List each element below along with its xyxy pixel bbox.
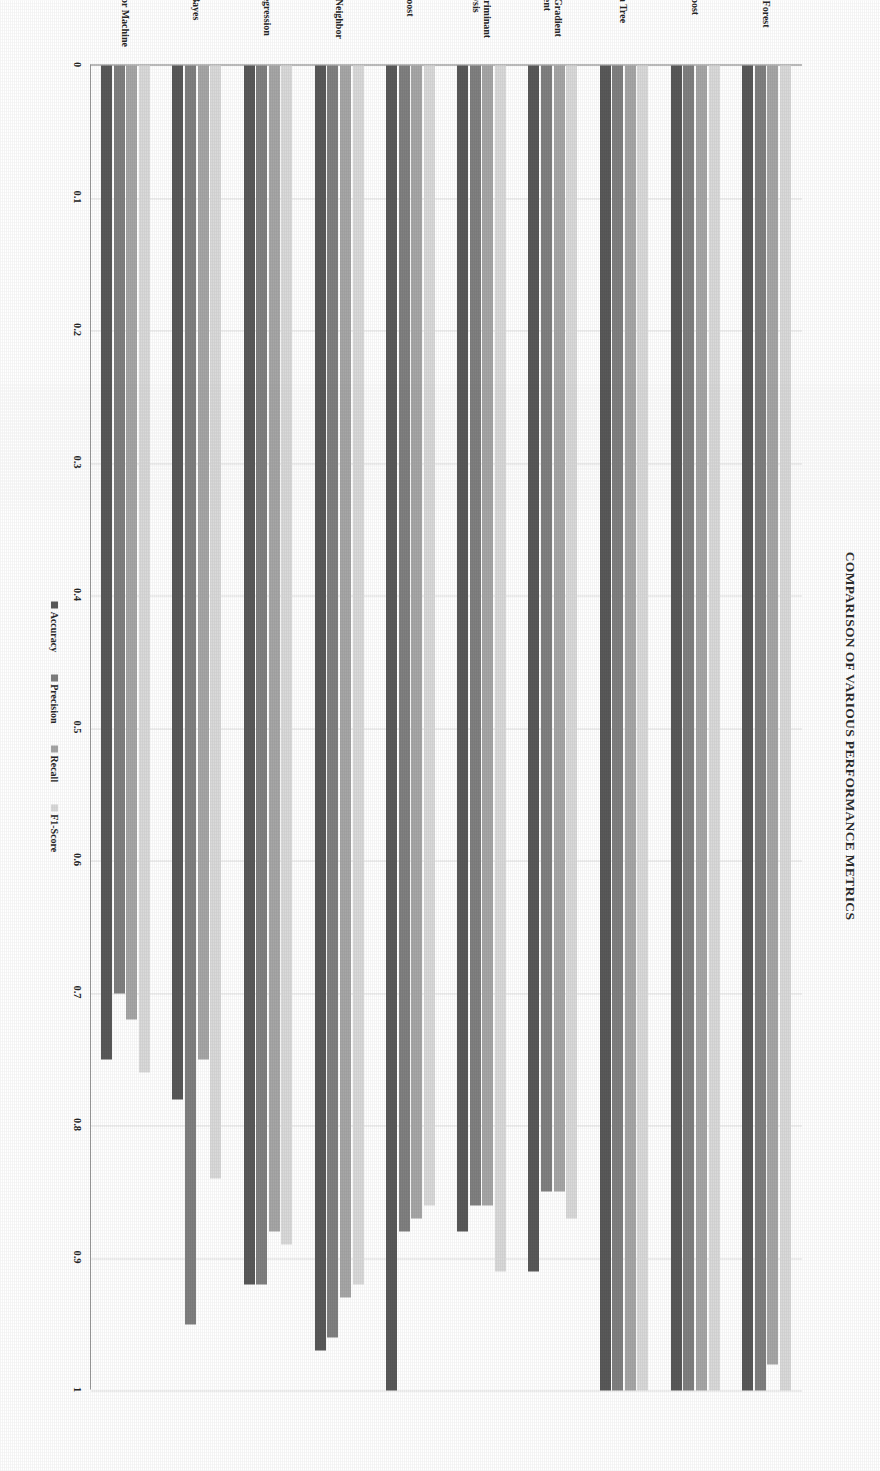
bar-recall: [340, 65, 351, 1297]
value-tick-label: 0.1: [72, 180, 83, 214]
bar-group: [375, 65, 446, 1389]
bar-group: [304, 65, 375, 1389]
bar-recall: [269, 65, 280, 1231]
bar-precision: [114, 65, 125, 993]
value-tick-label: 0.3: [72, 445, 83, 479]
bar-accuracy: [742, 65, 753, 1390]
bar-f1-score: [709, 65, 720, 1390]
bar-f1-score: [353, 65, 364, 1284]
bar-f1-score: [424, 65, 435, 1205]
bar-precision: [470, 65, 481, 1205]
legend-item-label: Accuracy: [49, 611, 60, 652]
bar-group: [232, 65, 303, 1389]
bar-group: [517, 65, 588, 1389]
bar-group: [660, 65, 731, 1389]
category-label: Stochastic Gradient Descent: [542, 0, 564, 54]
bar-recall: [696, 65, 707, 1390]
bar-f1-score: [566, 65, 577, 1218]
chart-legend: AccuracyPrecisionRecallF1-Score: [49, 64, 60, 1389]
bar-group: [161, 65, 232, 1389]
bar-recall: [625, 65, 636, 1390]
value-tick-label: 0.5: [72, 710, 83, 744]
legend-item-label: Recall: [49, 755, 60, 782]
rotated-figure-canvas: Comparison of Various Performance Metric…: [0, 0, 880, 1471]
category-label: Naive Bayes: [191, 0, 202, 54]
legend-item-precision[interactable]: Precision: [49, 674, 60, 723]
value-tick-label: 0.4: [72, 577, 83, 611]
category-label: Linear Discriminant Analysis: [471, 0, 493, 54]
bar-f1-score: [139, 65, 150, 1072]
value-tick-label: 0.2: [72, 312, 83, 346]
bar-precision: [755, 65, 766, 1390]
page-title: Comparison of Various Performance Metric…: [842, 0, 858, 1471]
plot-area: [90, 64, 802, 1389]
bar-group: [588, 65, 659, 1389]
legend-item-f1-score[interactable]: F1-Score: [49, 804, 60, 852]
bar-accuracy: [315, 65, 326, 1350]
legend-swatch-icon: [51, 674, 58, 681]
legend-item-label: F1-Score: [49, 814, 60, 852]
bar-precision: [541, 65, 552, 1191]
legend-swatch-icon: [51, 745, 58, 752]
bar-accuracy: [172, 65, 183, 1099]
bar-accuracy: [244, 65, 255, 1284]
bar-recall: [198, 65, 209, 1059]
value-tick-label: 1: [72, 1372, 83, 1406]
bar-f1-score: [495, 65, 506, 1271]
category-label: Support Vector Machine: [120, 0, 131, 54]
chart-figure: Comparison of Various Performance Metric…: [0, 0, 880, 1471]
bar-precision: [185, 65, 196, 1324]
bar-f1-score: [210, 65, 221, 1178]
legend-swatch-icon: [51, 601, 58, 608]
category-label: Ada Boost: [405, 0, 416, 54]
value-tick-label: 0: [72, 47, 83, 81]
category-label: Decision Tree: [619, 0, 630, 54]
value-tick-label: 0.8: [72, 1107, 83, 1141]
legend-swatch-icon: [51, 804, 58, 811]
bar-accuracy: [671, 65, 682, 1390]
bar-f1-score: [780, 65, 791, 1390]
legend-item-accuracy[interactable]: Accuracy: [49, 601, 60, 652]
bar-recall: [411, 65, 422, 1218]
category-label: Random Forest: [761, 0, 772, 54]
bar-precision: [683, 65, 694, 1390]
bar-recall: [482, 65, 493, 1205]
bar-group: [90, 65, 161, 1389]
bar-group: [446, 65, 517, 1389]
category-label: XG Boost: [690, 0, 701, 54]
value-tick-label: 0.6: [72, 842, 83, 876]
bar-recall: [126, 65, 137, 1019]
legend-item-recall[interactable]: Recall: [49, 745, 60, 782]
bar-accuracy: [600, 65, 611, 1390]
value-tick-label: 0.9: [72, 1240, 83, 1274]
bar-precision: [399, 65, 410, 1231]
bar-recall: [554, 65, 565, 1191]
bar-f1-score: [281, 65, 292, 1244]
bar-f1-score: [637, 65, 648, 1390]
bar-precision: [612, 65, 623, 1390]
category-label: K- Nearest Neighbor: [334, 0, 345, 54]
bar-recall: [767, 65, 778, 1364]
legend-item-label: Precision: [49, 684, 60, 723]
bar-precision: [327, 65, 338, 1337]
category-label: Logistic Regression: [263, 0, 274, 54]
bar-accuracy: [528, 65, 539, 1271]
bar-precision: [256, 65, 267, 1284]
value-tick-label: 0.7: [72, 975, 83, 1009]
bar-accuracy: [101, 65, 112, 1059]
bar-accuracy: [386, 65, 397, 1390]
bar-group: [731, 65, 802, 1389]
bar-accuracy: [457, 65, 468, 1231]
